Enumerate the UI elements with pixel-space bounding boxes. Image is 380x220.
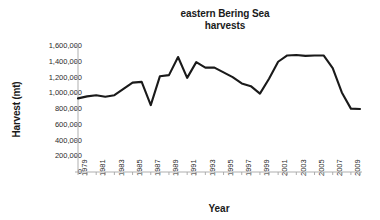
harvest-data-line [78,55,360,109]
axis-lines [78,44,362,172]
plot-area [0,0,380,220]
line-chart-figure: eastern Bering Sea harvests Harvest (mt)… [0,0,380,220]
axis-tick-marks [75,46,360,175]
